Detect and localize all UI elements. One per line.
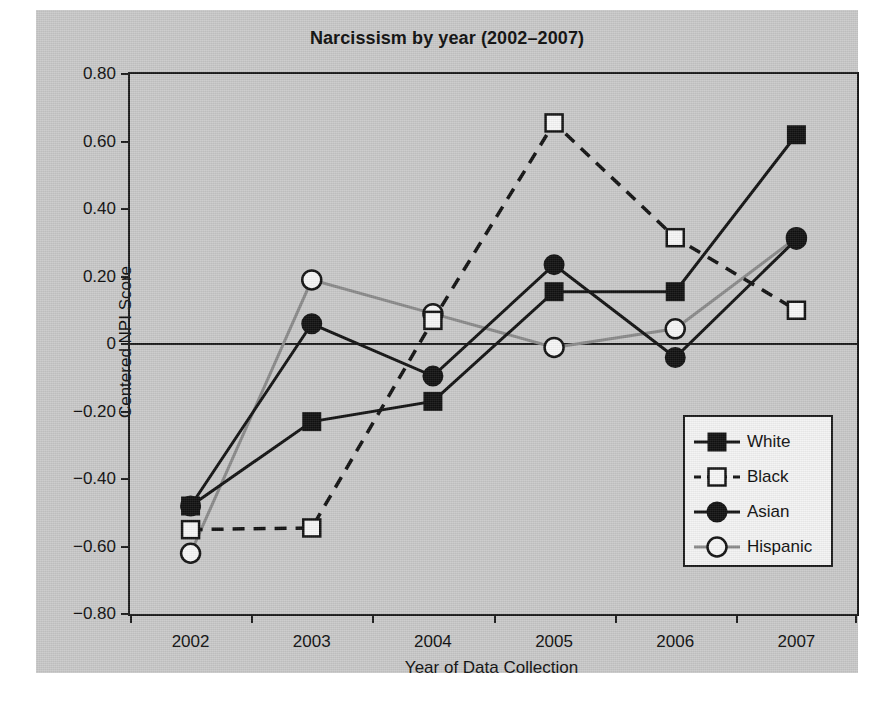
data-point-marker: [666, 348, 685, 367]
data-point-marker: [708, 502, 727, 521]
legend-item-white[interactable]: White: [685, 424, 831, 459]
data-point-marker: [181, 544, 200, 563]
legend-item-black[interactable]: Black: [685, 459, 831, 494]
x-axis-tick-label: 2006: [656, 632, 694, 652]
y-axis-tick: [121, 546, 130, 548]
x-axis-tick-label: 2002: [172, 632, 210, 652]
y-axis-tick: [121, 478, 130, 480]
y-axis-tick: [121, 276, 130, 278]
y-axis-tick-label: −0.60: [73, 537, 116, 557]
y-axis-tick-label: 0.60: [83, 132, 116, 152]
data-point-marker: [545, 255, 564, 274]
x-axis-tick: [251, 614, 253, 623]
data-point-marker: [423, 367, 442, 386]
data-point-marker: [303, 413, 320, 430]
x-axis-tick: [736, 614, 738, 623]
legend-marker-icon: [693, 501, 741, 523]
y-axis-tick: [121, 613, 130, 615]
y-axis-tick: [121, 141, 130, 143]
legend-item-label: Black: [747, 467, 789, 487]
data-point-marker: [788, 302, 805, 319]
x-axis-tick-label: 2003: [293, 632, 331, 652]
legend-item-label: Hispanic: [747, 537, 812, 557]
data-point-marker: [302, 314, 321, 333]
x-axis-tick-label: 2007: [777, 632, 815, 652]
chart-title: Narcissism by year (2002–2007): [36, 28, 858, 49]
legend-marker-icon: [693, 536, 741, 558]
data-point-marker: [182, 521, 199, 538]
data-point-marker: [708, 537, 727, 556]
data-point-marker: [788, 126, 805, 143]
legend-item-label: Asian: [747, 502, 790, 522]
y-axis-tick-label: −0.20: [73, 402, 116, 422]
x-axis-tick: [855, 614, 857, 623]
data-point-marker: [546, 283, 563, 300]
x-axis-tick-label: 2005: [535, 632, 573, 652]
data-point-marker: [667, 229, 684, 246]
x-axis-tick: [615, 614, 617, 623]
chart-legend: WhiteBlackAsianHispanic: [683, 415, 833, 567]
y-axis-tick: [121, 73, 130, 75]
y-axis-tick-label: 0.80: [83, 64, 116, 84]
data-point-marker: [666, 319, 685, 338]
data-point-marker: [546, 114, 563, 131]
y-axis-tick-label: 0.40: [83, 199, 116, 219]
legend-marker-icon: [693, 466, 741, 488]
data-point-marker: [424, 393, 441, 410]
y-axis-tick-label: 0: [107, 334, 116, 354]
x-axis-tick: [372, 614, 374, 623]
legend-item-label: White: [747, 432, 790, 452]
y-axis-tick-label: −0.80: [73, 604, 116, 624]
data-point-marker: [667, 283, 684, 300]
data-point-marker: [787, 230, 806, 249]
y-axis-tick: [121, 208, 130, 210]
data-point-marker: [303, 519, 320, 536]
data-point-marker: [709, 468, 726, 485]
y-axis-tick-label: 0.20: [83, 267, 116, 287]
legend-item-asian[interactable]: Asian: [685, 494, 831, 529]
legend-marker-icon: [693, 431, 741, 453]
data-point-marker: [709, 433, 726, 450]
y-axis-tick: [121, 411, 130, 413]
x-axis-label: Year of Data Collection: [128, 658, 855, 678]
y-axis-tick-label: −0.40: [73, 469, 116, 489]
x-axis-tick: [494, 614, 496, 623]
data-point-marker: [424, 312, 441, 329]
y-axis-tick: [121, 343, 130, 345]
data-point-marker: [545, 338, 564, 357]
x-axis-tick-label: 2004: [414, 632, 452, 652]
chart-figure: Narcissism by year (2002–2007) Centered …: [36, 10, 858, 673]
data-point-marker: [181, 497, 200, 516]
x-axis-tick: [130, 614, 132, 623]
legend-item-hispanic[interactable]: Hispanic: [685, 529, 831, 564]
data-point-marker: [302, 270, 321, 289]
